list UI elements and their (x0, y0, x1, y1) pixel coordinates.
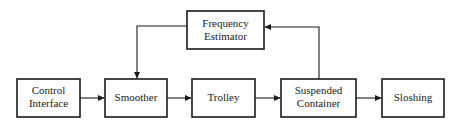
block-smoother: Smoother (105, 79, 167, 117)
block-label-line: Suspended (295, 84, 343, 96)
block-label-line: Frequency (202, 17, 249, 29)
block-suspended-container: Suspended Container (281, 79, 356, 117)
arrow-estimator-to-smoother (137, 26, 187, 78)
block-label-line: Control (32, 84, 66, 96)
block-sloshing: Sloshing (382, 79, 444, 117)
block-label-line: Container (297, 97, 341, 109)
block-label-line: Estimator (204, 30, 247, 42)
block-label-line: Trolley (208, 91, 240, 103)
block-diagram: Frequency Estimator Control Interface Sm… (0, 0, 463, 127)
block-label-line: Interface (29, 97, 68, 109)
block-trolley: Trolley (192, 79, 255, 117)
block-frequency-estimator: Frequency Estimator (187, 11, 264, 49)
block-control-interface: Control Interface (17, 79, 80, 117)
block-label-line: Sloshing (394, 91, 433, 103)
arrow-container-to-estimator (265, 27, 319, 79)
block-label-line: Smoother (115, 91, 158, 103)
